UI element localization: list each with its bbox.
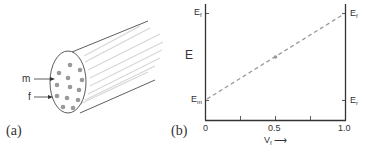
composite-cylinder <box>34 21 163 113</box>
matrix-label: m <box>22 74 30 83</box>
right-er-label: Er <box>350 96 358 108</box>
x-axis-label: Vf ⟶ <box>264 136 287 148</box>
left-em-label: Em <box>191 95 202 107</box>
left-ef-label: Ef <box>194 8 202 20</box>
y-axis-label: E <box>185 49 193 61</box>
right-arrow-icon: ⟶ <box>274 135 287 145</box>
x-tick-0: 0 <box>203 124 208 133</box>
x-tick-0-5: 0.5 <box>268 124 281 133</box>
panel-b-label: (b) <box>171 124 187 138</box>
right-ef-label: Ef <box>350 9 358 21</box>
midpoint-marker <box>274 55 278 59</box>
fiber-label: f <box>28 92 31 101</box>
panel-a-label: (a) <box>6 124 22 138</box>
x-tick-1-0: 1.0 <box>338 124 351 133</box>
modulus-chart <box>205 4 346 121</box>
